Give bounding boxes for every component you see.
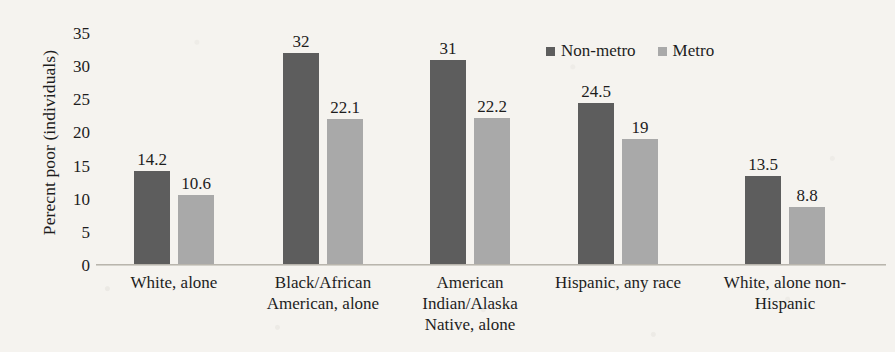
y-tick-25: 25 (48, 91, 90, 108)
bar-value-label: 32 (293, 33, 310, 50)
bar-metro[interactable]: 22.2 (474, 118, 510, 265)
bar-value-label: 31 (440, 40, 457, 57)
bar-value-label: 10.6 (181, 175, 211, 192)
category-label-line: Indian/Alaska (390, 293, 550, 314)
x-axis-line (96, 264, 886, 265)
category-label-line: American (390, 272, 550, 293)
bar-value-label: 19 (632, 119, 649, 136)
category-label-line: Native, alone (390, 314, 550, 335)
bar-value-label: 24.5 (581, 83, 611, 100)
y-tick-15: 15 (48, 158, 90, 175)
category-label: White, alone non-Hispanic (705, 272, 865, 314)
category-label-line: Black/African (243, 272, 403, 293)
category-label-line: American, alone (243, 293, 403, 314)
bar-value-label: 22.2 (477, 98, 507, 115)
bar-non-metro[interactable]: 13.5 (745, 176, 781, 265)
category-label: AmericanIndian/AlaskaNative, alone (390, 272, 550, 335)
bar-group: 24.519 (578, 33, 658, 265)
category-label-line: White, alone (94, 272, 254, 293)
category-label: Hispanic, any race (538, 272, 698, 293)
plot-area: 14.210.63222.13122.224.51913.58.8 (100, 33, 880, 265)
bar-group: 13.58.8 (745, 33, 825, 265)
bar-metro[interactable]: 10.6 (178, 195, 214, 265)
y-tick-20: 20 (48, 124, 90, 141)
bar-group: 14.210.6 (134, 33, 214, 265)
bar-group: 3122.2 (430, 33, 510, 265)
bar-metro[interactable]: 8.8 (789, 207, 825, 265)
bar-non-metro[interactable]: 14.2 (134, 171, 170, 265)
category-label-line: Hispanic, any race (538, 272, 698, 293)
bar-value-label: 14.2 (137, 151, 167, 168)
category-label: Black/AfricanAmerican, alone (243, 272, 403, 314)
bar-group: 3222.1 (283, 33, 363, 265)
bar-value-label: 13.5 (748, 156, 778, 173)
bar-non-metro[interactable]: 32 (283, 53, 319, 265)
bar-metro[interactable]: 19 (622, 139, 658, 265)
category-label-line: Hispanic (705, 293, 865, 314)
y-tick-0: 0 (48, 257, 90, 274)
category-label: White, alone (94, 272, 254, 293)
bar-chart: Perecnt poor (individuals) 0510152025303… (0, 0, 895, 352)
bar-metro[interactable]: 22.1 (327, 119, 363, 265)
bar-non-metro[interactable]: 24.5 (578, 103, 614, 265)
y-tick-30: 30 (48, 58, 90, 75)
y-tick-35: 35 (48, 25, 90, 42)
bar-value-label: 22.1 (330, 99, 360, 116)
y-tick-10: 10 (48, 191, 90, 208)
y-tick-5: 5 (48, 224, 90, 241)
bar-non-metro[interactable]: 31 (430, 60, 466, 265)
bar-value-label: 8.8 (796, 187, 817, 204)
category-label-line: White, alone non- (705, 272, 865, 293)
